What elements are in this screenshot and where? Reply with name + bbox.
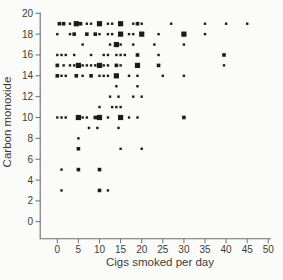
- data-point: [60, 75, 62, 77]
- data-point: [128, 33, 130, 35]
- data-point: [115, 64, 119, 68]
- data-point: [157, 64, 161, 68]
- data-point: [136, 22, 140, 26]
- data-point: [111, 23, 113, 25]
- data-point: [74, 21, 79, 26]
- data-point: [136, 116, 138, 118]
- data-point: [98, 33, 100, 35]
- data-point: [139, 32, 144, 37]
- data-point: [183, 43, 185, 45]
- scatter-figure: 0246810121416182005101520253035404550 Ci…: [0, 0, 283, 280]
- data-point: [98, 106, 100, 108]
- data-point: [132, 23, 134, 25]
- data-point: [141, 95, 143, 97]
- data-point: [107, 54, 109, 56]
- data-point: [115, 85, 117, 87]
- y-tick-label: 10: [22, 112, 34, 123]
- data-point: [65, 54, 67, 56]
- data-point: [182, 116, 186, 120]
- data-point: [107, 23, 109, 25]
- data-point: [65, 116, 67, 118]
- data-point: [97, 63, 102, 68]
- data-point: [65, 75, 67, 77]
- data-point: [98, 168, 102, 172]
- data-point: [115, 54, 117, 56]
- data-point: [81, 75, 83, 77]
- data-point: [153, 43, 155, 45]
- data-point: [56, 74, 60, 78]
- axis-lines: [40, 13, 271, 239]
- data-point: [103, 75, 105, 77]
- y-tick-label: 4: [27, 175, 33, 186]
- data-point: [132, 95, 134, 97]
- data-point: [117, 95, 119, 97]
- data-point: [225, 23, 227, 25]
- x-tick-label: 45: [242, 244, 254, 255]
- data-point: [85, 32, 89, 36]
- data-point: [93, 116, 97, 120]
- data-point: [117, 127, 119, 129]
- data-point: [109, 95, 111, 97]
- data-point: [93, 32, 97, 36]
- data-point: [74, 74, 78, 78]
- data-point: [107, 33, 109, 35]
- data-point: [79, 22, 83, 26]
- y-tick-label: 16: [22, 49, 34, 60]
- data-point: [107, 75, 109, 77]
- data-point: [98, 189, 102, 193]
- data-point: [128, 75, 130, 77]
- data-point: [103, 54, 105, 56]
- y-tick-label: 14: [22, 70, 34, 81]
- data-point: [114, 73, 119, 78]
- data-point: [183, 75, 185, 77]
- data-point: [69, 33, 71, 35]
- data-point: [86, 64, 88, 66]
- data-point: [136, 53, 140, 57]
- x-tick-label: 15: [115, 244, 127, 255]
- data-point: [97, 115, 102, 120]
- data-point: [90, 64, 92, 66]
- data-point: [204, 33, 206, 35]
- data-point: [115, 106, 117, 108]
- data-point: [141, 148, 143, 150]
- data-point: [132, 43, 134, 45]
- data-point: [89, 74, 93, 78]
- data-point: [90, 54, 92, 56]
- data-point: [88, 127, 90, 129]
- data-point: [118, 32, 123, 37]
- data-point: [246, 23, 248, 25]
- data-point: [128, 116, 130, 118]
- data-point: [56, 33, 58, 35]
- y-tick-label: 18: [22, 29, 34, 40]
- data-point: [60, 189, 62, 191]
- data-point: [77, 137, 79, 139]
- data-point: [222, 53, 226, 57]
- chart-layer: 0246810121416182005101520253035404550: [22, 8, 274, 255]
- data-point: [103, 64, 105, 66]
- data-point: [124, 54, 126, 56]
- data-point: [73, 54, 75, 56]
- data-point: [81, 43, 83, 45]
- data-point: [90, 23, 92, 25]
- data-point: [223, 64, 225, 66]
- data-point: [97, 21, 102, 26]
- data-point: [81, 116, 83, 118]
- data-point: [94, 64, 96, 66]
- x-tick-label: 10: [94, 244, 106, 255]
- data-point: [204, 23, 206, 25]
- data-point: [136, 75, 138, 77]
- data-point: [114, 42, 119, 47]
- plot-area: 0246810121416182005101520253035404550 Ci…: [0, 0, 283, 280]
- x-tick-label: 40: [221, 244, 233, 255]
- x-tick-label: 50: [263, 244, 275, 255]
- data-point: [119, 54, 121, 56]
- data-point: [56, 54, 58, 56]
- data-point: [62, 64, 64, 66]
- y-tick-label: 20: [22, 8, 34, 19]
- data-point: [118, 21, 123, 26]
- y-tick-label: 2: [27, 195, 33, 206]
- data-point: [73, 64, 75, 66]
- data-point: [136, 85, 138, 87]
- data-point: [119, 64, 121, 66]
- data-point: [181, 32, 186, 37]
